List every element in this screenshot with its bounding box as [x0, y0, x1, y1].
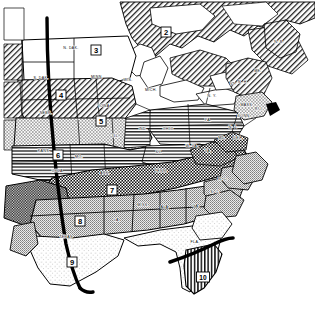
- state-label: MD.: [218, 136, 226, 140]
- state-label: TENN.: [155, 169, 168, 173]
- state-label: KANS.: [38, 149, 51, 153]
- zone-label-9[interactable]: 9: [67, 257, 77, 267]
- state-label: ILL.: [112, 134, 119, 138]
- zone-label-10[interactable]: 10: [197, 272, 210, 282]
- zone-label-7[interactable]: 7: [107, 185, 117, 195]
- state-label: R. I.: [255, 107, 263, 111]
- zone-label-8[interactable]: 8: [75, 216, 85, 226]
- zone-number: 9: [70, 258, 74, 267]
- zone-label-6[interactable]: 6: [53, 150, 63, 160]
- zone-label-5[interactable]: 5: [96, 116, 106, 126]
- state-label: N. DAK.: [63, 46, 78, 50]
- zone-number: 7: [110, 186, 114, 195]
- state-label: NEBR.: [40, 111, 53, 115]
- state-label: MASS.: [241, 103, 254, 107]
- state-label: TEXAS: [59, 235, 73, 239]
- state-label: MICH.: [145, 88, 157, 92]
- zone-number: 3: [94, 46, 98, 55]
- zone-number: 8: [78, 217, 82, 226]
- state-label: W. VA.: [186, 144, 199, 148]
- state-label: VA.: [205, 149, 212, 153]
- state-label: ME.: [254, 69, 261, 73]
- state-label: N. C.: [218, 177, 228, 181]
- state-label: OKLA.: [52, 169, 64, 173]
- state-label: OHIO: [163, 127, 174, 131]
- state-label: S. C.: [210, 190, 220, 194]
- state-label: GA.: [192, 204, 199, 208]
- state-label: N. B.: [274, 40, 284, 44]
- state-label: N. Y.: [207, 94, 216, 98]
- state-label: N. J.: [228, 125, 237, 129]
- thematic-zone-map: N. DAK.S. DAK.MINN.WIS.MICH.IOWANEBR.KAN…: [0, 0, 315, 310]
- state-label: MINN.: [91, 75, 103, 79]
- state-label: MO.: [75, 155, 83, 159]
- state-label: MISS.: [137, 203, 149, 207]
- zone-number: 10: [199, 274, 207, 281]
- state-label: N. H.: [238, 80, 248, 84]
- state-label: FLA.: [191, 240, 200, 244]
- state-label: IOWA: [99, 104, 110, 108]
- state-label: VT.: [230, 82, 236, 86]
- zone-label-4[interactable]: 4: [56, 90, 66, 100]
- zone-label-3[interactable]: 3: [91, 45, 101, 55]
- state-label: PA.: [205, 118, 212, 122]
- map-container: N. DAK.S. DAK.MINN.WIS.MICH.IOWANEBR.KAN…: [0, 0, 315, 310]
- state-label: CONN.: [237, 114, 250, 118]
- state-label: S. DAK.: [33, 76, 48, 80]
- state-label: KY.: [156, 150, 162, 154]
- zone-label-2[interactable]: 2: [161, 27, 171, 37]
- state-label: ARK.: [100, 171, 110, 175]
- zone-number: 6: [56, 151, 60, 160]
- state-label: DEL.: [233, 136, 242, 140]
- state-label: LA.: [114, 218, 120, 222]
- zone-number: 2: [164, 28, 168, 37]
- state-label: WIS.: [123, 78, 132, 82]
- state-label: IND.: [139, 127, 148, 131]
- state-label: ALA.: [160, 205, 169, 209]
